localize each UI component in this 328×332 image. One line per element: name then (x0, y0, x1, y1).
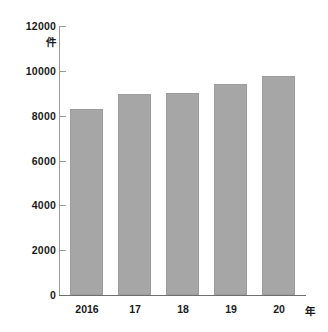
y-tick-label: 4000 (32, 199, 56, 211)
bar-18 (166, 93, 199, 295)
y-tick-label: 6000 (32, 155, 56, 167)
x-axis-line (59, 295, 306, 296)
x-tick-label-19: 19 (207, 303, 255, 315)
bar-20 (262, 76, 295, 295)
x-tick-label-18: 18 (159, 303, 207, 315)
y-axis-unit-label: 件 (46, 34, 56, 49)
y-tick-label: 2000 (32, 244, 56, 256)
bar-19 (214, 84, 247, 295)
x-tick-label-20: 20 (255, 303, 303, 315)
y-tick-label: 0 (50, 289, 56, 301)
bar-17 (118, 94, 151, 295)
y-tick-label: 10000 (26, 65, 56, 77)
bar-chart: 12000 10000 8000 6000 4000 2000 0 件 2016… (0, 0, 328, 332)
x-tick-label-17: 17 (111, 303, 159, 315)
y-tick-label: 12000 (26, 20, 56, 32)
x-axis-unit-label: 年 (305, 303, 315, 318)
bar-2016 (70, 109, 103, 295)
y-tick-label: 8000 (32, 110, 56, 122)
x-tick-label-2016: 2016 (63, 303, 111, 315)
plot-area (59, 26, 306, 295)
